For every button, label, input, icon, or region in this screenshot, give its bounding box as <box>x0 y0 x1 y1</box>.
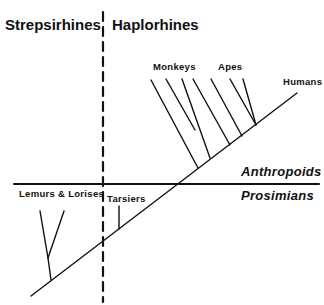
anthropoid-branch-5 <box>211 79 242 136</box>
anthropoid-branch-6 <box>230 79 256 125</box>
lemur-stem <box>48 258 51 280</box>
label-monkeys: Monkeys <box>153 61 196 72</box>
phylogeny-svg <box>0 0 324 305</box>
label-prosimians: Prosimians <box>241 188 314 203</box>
lemur-branch <box>40 211 48 258</box>
header-strepsirhines: Strepsirhines <box>5 16 101 33</box>
label-anthropoids: Anthropoids <box>241 164 322 179</box>
label-humans: Humans <box>283 76 322 87</box>
label-tarsiers: Tarsiers <box>107 193 146 204</box>
label-lemurs-lorises: Lemurs & Lorises <box>19 188 104 199</box>
loris-branch <box>48 211 64 258</box>
anthropoid-branch-7 <box>243 79 256 125</box>
anthropoid-branch-4 <box>193 79 230 145</box>
header-haplorhines: Haplorhines <box>112 16 199 33</box>
label-apes: Apes <box>218 61 242 72</box>
